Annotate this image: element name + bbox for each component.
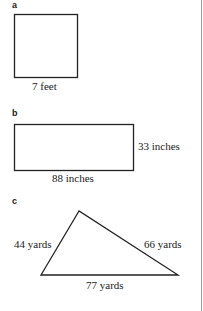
page-edge-divider [201, 0, 202, 311]
label-b: b [12, 108, 18, 118]
rect-width-label: 88 inches [52, 172, 94, 184]
rectangle-b [15, 125, 134, 171]
label-c: c [12, 196, 17, 206]
label-a: a [12, 0, 17, 10]
square-a [15, 15, 78, 78]
triangle-base-label: 77 yards [86, 279, 124, 291]
triangle-left-label: 44 yards [14, 238, 52, 250]
square-side-label: 7 feet [32, 80, 57, 92]
rect-height-label: 33 inches [138, 140, 180, 152]
figure-canvas [0, 0, 203, 311]
triangle-right-label: 66 yards [144, 238, 182, 250]
